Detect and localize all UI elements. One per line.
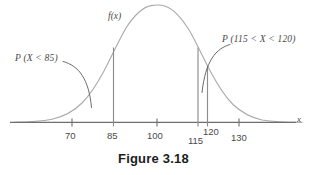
x-axis-label: x	[297, 115, 301, 124]
left-label-leader-arc	[63, 62, 92, 108]
normal-distribution-plot	[0, 0, 316, 175]
tick-label-120: 120	[203, 127, 219, 137]
tick-label-70: 70	[65, 131, 76, 141]
probability-label-right: P (115 < X < 120)	[222, 35, 296, 45]
tick-label-115: 115	[188, 136, 203, 146]
density-curve	[14, 5, 302, 122]
density-function-label: f(x)	[108, 12, 121, 22]
right-label-leader-arc	[202, 45, 230, 93]
probability-label-left: P (X < 85)	[15, 54, 58, 64]
tick-label-85: 85	[107, 131, 118, 141]
tick-label-130: 130	[231, 133, 247, 143]
tick-label-100: 100	[147, 131, 163, 141]
figure-caption: Figure 3.18	[118, 152, 189, 165]
figure-container: f(x) P (X < 85) P (115 < X < 120) x 70 8…	[0, 0, 316, 175]
